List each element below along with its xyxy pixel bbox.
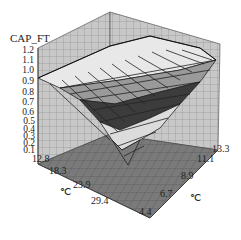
x-axis-label: ℃ [60, 187, 71, 197]
z-axis-label: CAP_FT [10, 33, 50, 44]
z-tick: 1.0 [12, 66, 34, 76]
y-tick: 4.4 [139, 207, 152, 217]
z-tick: 0.9 [12, 77, 34, 87]
y-tick: 8.9 [181, 171, 194, 181]
y-tick: 6.7 [160, 189, 173, 199]
y-axis-label: ℃ [190, 193, 201, 203]
x-tick: 18.3 [49, 166, 67, 176]
x-tick: 23.9 [73, 180, 91, 190]
x-tick: 29.4 [91, 196, 109, 206]
y-tick: 13.3 [212, 144, 230, 154]
y-tick: 11.1 [197, 154, 214, 164]
x-tick: 12.8 [32, 154, 50, 164]
